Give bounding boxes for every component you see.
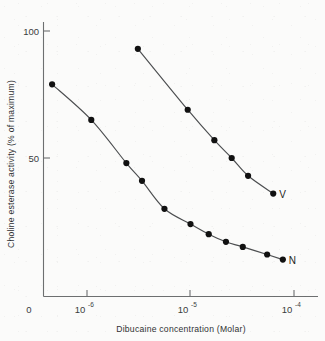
data-point-V-3	[229, 155, 235, 161]
data-point-N-10	[280, 257, 286, 263]
x-tick-exponent-1e-4: -4	[295, 301, 301, 308]
series-label-N: N	[289, 255, 296, 266]
data-point-V-4	[245, 173, 251, 179]
x-tick-exponent-1e-5: -5	[191, 301, 197, 308]
data-point-N-4	[161, 206, 167, 212]
x-tick-base-1e-4: 10	[282, 304, 293, 315]
data-point-N-1	[88, 117, 94, 123]
data-point-V-1	[185, 107, 191, 113]
y-tick-label-50: 50	[28, 153, 39, 164]
data-point-N-2	[123, 160, 129, 166]
y-axis-ticks	[44, 31, 51, 158]
y-axis-title: Choline esterase activity (% of maximum)	[6, 80, 16, 248]
x-tick-base-1e-6: 10	[75, 304, 86, 315]
data-point-N-6	[206, 231, 212, 237]
x-tick-label-1e-5: 10 -5	[178, 301, 197, 315]
x-tick-label-1e-4: 10 -4	[282, 301, 301, 315]
data-point-N-3	[139, 178, 145, 184]
data-point-V-5	[270, 190, 276, 196]
x-tick-exponent-1e-6: -6	[88, 301, 94, 308]
x-axis-ticks	[87, 290, 294, 297]
dose-response-plot: 100 50 0 10 -6 10 -5 10 -4 Dibucaine con…	[0, 0, 325, 341]
data-point-V-0	[135, 46, 141, 52]
curve-V	[138, 49, 273, 194]
y-tick-label-100: 100	[23, 26, 39, 37]
x-tick-base-1e-5: 10	[178, 304, 189, 315]
series-layer	[49, 46, 286, 263]
series-N	[49, 81, 286, 262]
x-axis-title: Dibucaine concentration (Molar)	[116, 324, 246, 334]
curve-N	[52, 84, 283, 259]
series-label-V: V	[279, 189, 286, 200]
data-point-N-7	[223, 239, 229, 245]
series-V	[135, 46, 277, 197]
data-point-N-9	[264, 251, 270, 257]
x-tick-label-1e-6: 10 -6	[75, 301, 94, 315]
data-point-N-0	[49, 81, 55, 87]
axes	[44, 22, 319, 297]
data-point-N-5	[187, 221, 193, 227]
data-point-N-8	[240, 244, 246, 250]
data-point-V-2	[211, 137, 217, 143]
chart-figure: 100 50 0 10 -6 10 -5 10 -4 Dibucaine con…	[0, 0, 325, 341]
x-axis-origin-label: 0	[26, 304, 31, 315]
